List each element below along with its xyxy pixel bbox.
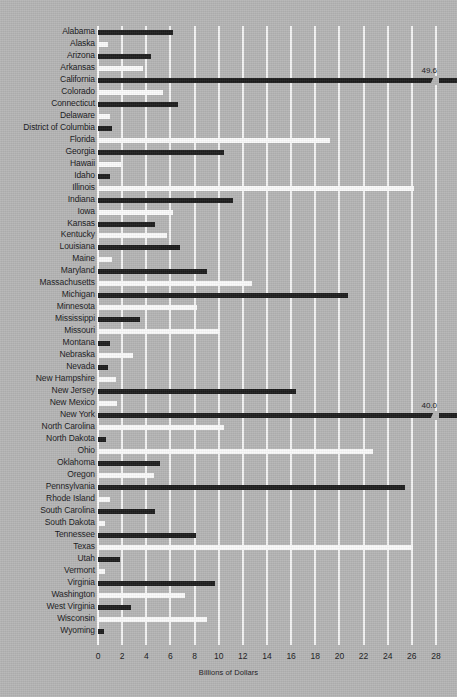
category-label-connecticut: Connecticut bbox=[2, 99, 95, 108]
bar-louisiana bbox=[98, 245, 180, 250]
bar-mississippi bbox=[98, 317, 140, 322]
bar-montana bbox=[98, 341, 110, 346]
category-label-california: California bbox=[2, 75, 95, 84]
x-tick-24: 24 bbox=[376, 651, 400, 661]
bar-nebraska bbox=[98, 353, 133, 358]
gridline-20 bbox=[338, 26, 340, 645]
category-label-illinois: Illinois bbox=[2, 183, 95, 192]
x-tick-26: 26 bbox=[400, 651, 424, 661]
category-label-michigan: Michigan bbox=[2, 290, 95, 299]
bar-delaware bbox=[98, 114, 110, 119]
category-label-minnesota: Minnesota bbox=[2, 302, 95, 311]
bar-new-mexico bbox=[98, 401, 117, 406]
bar-continuation-california bbox=[439, 78, 457, 83]
bar-illinois bbox=[98, 186, 414, 191]
category-label-mississippi: Mississippi bbox=[2, 314, 95, 323]
bar-texas bbox=[98, 545, 413, 550]
category-label-new-jersey: New Jersey bbox=[2, 386, 95, 395]
category-label-colorado: Colorado bbox=[2, 87, 95, 96]
category-label-new-hampshire: New Hampshire bbox=[2, 374, 95, 383]
axis-zero-line bbox=[97, 26, 99, 645]
bar-west-virginia bbox=[98, 605, 131, 610]
gridline-28 bbox=[435, 26, 437, 645]
category-label-wisconsin: Wisconsin bbox=[2, 614, 95, 623]
x-tick-20: 20 bbox=[327, 651, 351, 661]
bar-new-hampshire bbox=[98, 377, 116, 382]
bar-alabama bbox=[98, 30, 173, 35]
bar-arizona bbox=[98, 54, 151, 59]
category-label-maine: Maine bbox=[2, 254, 95, 263]
bar-maine bbox=[98, 257, 112, 262]
category-label-montana: Montana bbox=[2, 338, 95, 347]
x-tick-12: 12 bbox=[231, 651, 255, 661]
category-label-column: AlabamaAlaskaArizonaArkansasCaliforniaCo… bbox=[0, 0, 95, 697]
gridline-12 bbox=[242, 26, 244, 645]
bar-california bbox=[98, 78, 448, 83]
bar-pennsylvania bbox=[98, 485, 405, 490]
category-label-utah: Utah bbox=[2, 554, 95, 563]
x-tick-28: 28 bbox=[424, 651, 448, 661]
value-label-california: 49.6 bbox=[421, 66, 437, 75]
bar-washington bbox=[98, 593, 185, 598]
bar-continuation-new-york bbox=[439, 413, 457, 418]
bar-colorado bbox=[98, 90, 163, 95]
category-label-oklahoma: Oklahoma bbox=[2, 458, 95, 467]
bar-oregon bbox=[98, 473, 154, 478]
gridline-18 bbox=[314, 26, 316, 645]
x-tick-6: 6 bbox=[158, 651, 182, 661]
category-label-kentucky: Kentucky bbox=[2, 230, 95, 239]
category-label-south-dakota: South Dakota bbox=[2, 518, 95, 527]
category-label-pennsylvania: Pennsylvania bbox=[2, 482, 95, 491]
category-label-west-virginia: West Virginia bbox=[2, 602, 95, 611]
gridline-22 bbox=[363, 26, 365, 645]
category-label-nevada: Nevada bbox=[2, 362, 95, 371]
category-label-arizona: Arizona bbox=[2, 51, 95, 60]
x-tick-8: 8 bbox=[183, 651, 207, 661]
bar-nevada bbox=[98, 365, 108, 370]
bar-new-york bbox=[98, 413, 448, 418]
bar-missouri bbox=[98, 329, 220, 334]
bar-kentucky bbox=[98, 233, 167, 238]
category-label-alaska: Alaska bbox=[2, 39, 95, 48]
bar-hawaii bbox=[98, 162, 121, 167]
gridline-4 bbox=[145, 26, 147, 645]
x-tick-2: 2 bbox=[110, 651, 134, 661]
category-label-florida: Florida bbox=[2, 135, 95, 144]
bar-north-carolina bbox=[98, 425, 224, 430]
category-label-missouri: Missouri bbox=[2, 326, 95, 335]
category-label-north-carolina: North Carolina bbox=[2, 422, 95, 431]
category-label-massachusetts: Massachusetts bbox=[2, 278, 95, 287]
x-tick-14: 14 bbox=[255, 651, 279, 661]
category-label-idaho: Idaho bbox=[2, 171, 95, 180]
x-tick-4: 4 bbox=[134, 651, 158, 661]
category-label-georgia: Georgia bbox=[2, 147, 95, 156]
horizontal-bar-chart: AlabamaAlaskaArizonaArkansasCaliforniaCo… bbox=[0, 0, 457, 697]
gridline-16 bbox=[290, 26, 292, 645]
gridline-14 bbox=[266, 26, 268, 645]
category-label-south-carolina: South Carolina bbox=[2, 506, 95, 515]
gridline-2 bbox=[121, 26, 123, 645]
category-label-iowa: Iowa bbox=[2, 207, 95, 216]
bar-rhode-island bbox=[98, 497, 110, 502]
x-tick-10: 10 bbox=[207, 651, 231, 661]
category-label-washington: Washington bbox=[2, 590, 95, 599]
category-label-vermont: Vermont bbox=[2, 566, 95, 575]
gridline-10 bbox=[218, 26, 220, 645]
bar-alaska bbox=[98, 42, 108, 47]
category-label-ohio: Ohio bbox=[2, 446, 95, 455]
bar-maryland bbox=[98, 269, 207, 274]
category-label-district-of-columbia: District of Columbia bbox=[2, 123, 95, 132]
category-label-tennessee: Tennessee bbox=[2, 530, 95, 539]
bar-massachusetts bbox=[98, 281, 252, 286]
category-label-wyoming: Wyoming bbox=[2, 626, 95, 635]
bar-arkansas bbox=[98, 66, 143, 71]
x-tick-16: 16 bbox=[279, 651, 303, 661]
bar-ohio bbox=[98, 449, 373, 454]
category-label-hawaii: Hawaii bbox=[2, 159, 95, 168]
gridline-26 bbox=[411, 26, 413, 645]
gridline-8 bbox=[194, 26, 196, 645]
category-label-alabama: Alabama bbox=[2, 27, 95, 36]
category-label-oregon: Oregon bbox=[2, 470, 95, 479]
bar-wyoming bbox=[98, 629, 104, 634]
x-tick-18: 18 bbox=[303, 651, 327, 661]
